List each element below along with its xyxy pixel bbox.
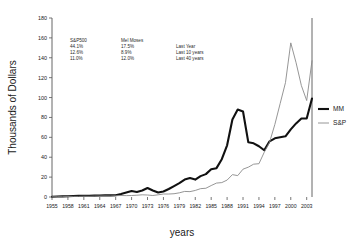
x-tick-label: 1976 bbox=[158, 203, 170, 209]
annotation-cell-1-1: 8.9% bbox=[121, 50, 131, 55]
x-tick-label: 1994 bbox=[253, 203, 265, 209]
x-tick-label: 1955 bbox=[46, 203, 58, 209]
chart-container: 0204060801001201401601801955195819611964… bbox=[0, 0, 361, 245]
annotation-cell-0-0: 44.1% bbox=[70, 44, 83, 49]
y-tick-label: 160 bbox=[38, 35, 47, 41]
y-tick-label: 80 bbox=[41, 114, 47, 120]
y-tick-label: 100 bbox=[38, 95, 47, 101]
legend-label-mm: MM bbox=[333, 105, 344, 112]
annotation-cell-2-2: Last 40 years bbox=[176, 56, 204, 61]
y-tick-label: 140 bbox=[38, 55, 47, 61]
y-tick-label: 20 bbox=[41, 174, 47, 180]
y-tick-label: 40 bbox=[41, 154, 47, 160]
x-tick-label: 2003 bbox=[301, 203, 313, 209]
x-tick-label: 1970 bbox=[126, 203, 138, 209]
annotation-cell-2-1: Last 10 years bbox=[176, 50, 204, 55]
annotation-header-1: Mel Moses bbox=[121, 38, 144, 43]
x-tick-label: 1985 bbox=[205, 203, 217, 209]
x-axis-title: years bbox=[170, 227, 194, 238]
x-tick-label: 1967 bbox=[110, 203, 122, 209]
annotation-cell-1-0: 17.5% bbox=[121, 44, 134, 49]
annotation-cell-1-2: 12.0% bbox=[121, 56, 134, 61]
series-line-mm bbox=[52, 99, 312, 197]
y-tick-label: 0 bbox=[44, 194, 47, 200]
x-tick-label: 1982 bbox=[189, 203, 201, 209]
line-chart: 0204060801001201401601801955195819611964… bbox=[0, 0, 361, 245]
x-tick-label: 1991 bbox=[237, 203, 249, 209]
annotation-header-0: S&P500 bbox=[70, 38, 87, 43]
y-tick-label: 180 bbox=[38, 15, 47, 21]
x-tick-label: 1964 bbox=[94, 203, 106, 209]
y-tick-label: 120 bbox=[38, 75, 47, 81]
y-tick-label: 60 bbox=[41, 134, 47, 140]
x-tick-label: 2000 bbox=[285, 203, 297, 209]
x-tick-label: 1973 bbox=[142, 203, 154, 209]
x-tick-label: 1997 bbox=[269, 203, 281, 209]
annotation-cell-0-1: 12.6% bbox=[70, 50, 83, 55]
annotation-cell-0-2: 11.0% bbox=[70, 56, 83, 61]
x-tick-label: 1958 bbox=[62, 203, 74, 209]
annotation-cell-2-0: Last Year bbox=[176, 44, 196, 49]
legend-label-s-p: S&P bbox=[333, 119, 347, 126]
x-tick-label: 1979 bbox=[174, 203, 186, 209]
series-line-s-p bbox=[52, 43, 312, 197]
x-tick-label: 1988 bbox=[221, 203, 233, 209]
x-tick-label: 1961 bbox=[78, 203, 90, 209]
y-axis-title: Thousands of Dollars bbox=[7, 60, 18, 155]
